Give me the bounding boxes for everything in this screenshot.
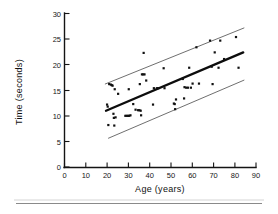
regression-line [106,52,243,110]
x-tick-label: 60 [188,171,196,180]
data-point [112,113,114,115]
data-point [182,78,184,80]
data-point [106,103,108,105]
data-point [175,98,177,100]
data-point [209,40,211,42]
data-point [128,88,130,90]
x-tick-label: 30 [124,171,132,180]
data-point [107,106,109,108]
data-point [140,114,142,116]
data-point [237,67,239,69]
y-tick-label: 25 [53,35,61,44]
y-axis-ticks [65,14,70,168]
data-point [214,51,216,53]
x-axis-ticks [65,163,257,168]
data-point [114,116,116,118]
data-point [134,109,136,111]
y-tick-label: 20 [53,61,61,70]
data-point [188,67,190,69]
data-point [174,108,176,110]
y-tick-label: 30 [53,10,61,19]
data-point [139,83,141,85]
data-point [211,66,213,68]
y-tick-label: 5 [57,138,61,147]
data-point [217,67,219,69]
data-point [114,88,116,90]
scatter-plot-chart: 30 25 20 15 10 5 0 0 10 20 30 40 50 60 7… [0,0,278,214]
y-tick-label: 15 [53,87,61,96]
x-tick-label: 0 [62,171,66,180]
x-tick-label: 40 [146,171,154,180]
data-point [211,83,213,85]
data-point [111,85,113,87]
figure-panel: 30 25 20 15 10 5 0 0 10 20 30 40 50 60 7… [0,0,278,214]
y-tick-label: 10 [53,112,61,121]
data-point [129,114,131,116]
confidence-band-lines [105,28,244,139]
data-point [187,87,189,89]
x-axis-tick-labels: 0 10 20 30 40 50 60 70 80 90 [62,171,260,180]
x-tick-label: 20 [103,171,111,180]
data-point [191,83,193,85]
x-tick-label: 70 [209,171,217,180]
data-point [153,87,155,89]
data-point [183,97,185,99]
data-point [143,52,145,54]
y-axis-tick-labels: 30 25 20 15 10 5 0 [53,10,61,173]
y-axis-title: Time (seconds) [14,59,24,125]
data-point [113,124,115,126]
x-tick-label: 10 [82,171,90,180]
x-axis-title: Age (years) [135,184,185,194]
x-tick-label: 50 [167,171,175,180]
regression-line [106,52,243,110]
x-tick-label: 90 [252,171,260,180]
y-tick-label: 0 [57,163,61,172]
data-point [223,58,225,60]
data-point [190,87,192,89]
data-point [117,93,119,95]
data-point [145,79,147,81]
data-point [163,87,165,89]
data-point [198,83,200,85]
data-point [157,87,159,89]
data-point [107,124,109,126]
data-point [195,46,197,48]
data-point [143,73,145,75]
x-tick-label: 80 [231,171,239,180]
data-point [152,103,154,105]
data-point [132,103,134,105]
data-point [140,110,142,112]
data-point [235,36,237,38]
upper-band-line [105,28,244,84]
data-point [174,103,176,105]
plot-axes [64,13,256,168]
data-point [219,40,221,42]
data-point [163,67,165,69]
